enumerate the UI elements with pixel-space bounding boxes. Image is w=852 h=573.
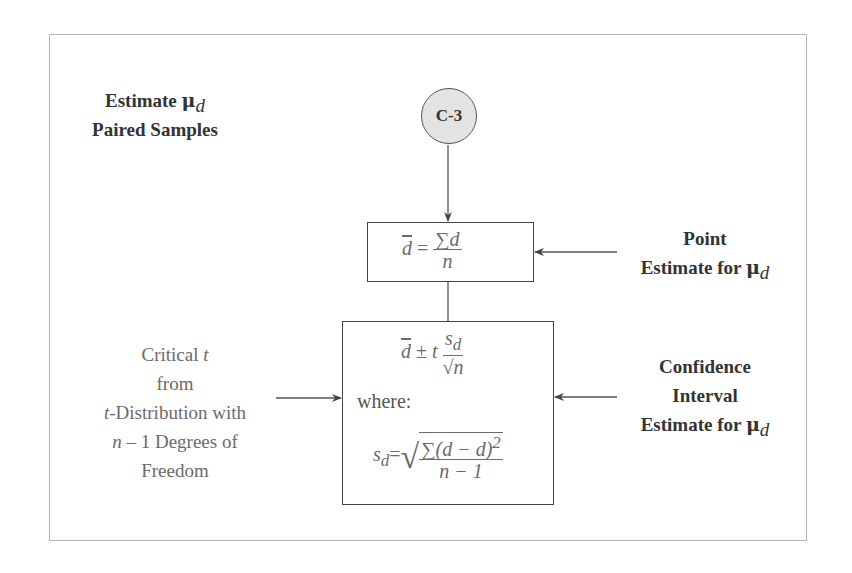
point-estimate-label: Point Estimate for μd — [615, 224, 795, 282]
title-label: Estimate μd Paired Samples — [80, 86, 230, 144]
confidence-interval-label: Confidence Interval Estimate for μd — [615, 352, 795, 439]
interval-formula: d ± t sd√n — [401, 328, 464, 378]
critical-t-label: Critical t from t-Distribution with n – … — [80, 340, 270, 485]
point-estimate-box: d = ∑dn — [367, 222, 534, 282]
confidence-interval-box: d ± t sd√n where: sd=√∑(d − d)2n − 1 — [342, 321, 554, 505]
mean-difference-formula: d = ∑dn — [402, 229, 462, 272]
connector-node-c3: C-3 — [421, 88, 477, 144]
std-dev-formula: sd=√∑(d − d)2n − 1 — [373, 432, 503, 482]
where-label: where: — [357, 390, 411, 413]
